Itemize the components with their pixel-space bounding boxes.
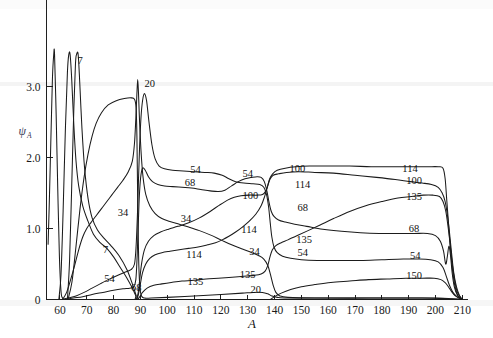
curve-label: 34 [249, 246, 260, 257]
psi-vs-a-line-chart: 6070809010011012013014015016017018019020… [0, 0, 493, 338]
curve-label: 54 [410, 250, 421, 261]
x-tick-label: 70 [81, 304, 93, 316]
curve-label: 114 [402, 163, 418, 174]
curve-label: 135 [406, 191, 422, 202]
y-tick-label: 1.0 [26, 223, 41, 235]
x-tick-label: 160 [320, 304, 338, 316]
curve-label: 135 [240, 269, 256, 280]
curve-label: 68 [297, 202, 308, 213]
curve-label: 68 [185, 177, 196, 188]
x-tick-label: 100 [159, 304, 177, 316]
curve-label: 100 [243, 190, 259, 201]
x-tick-label: 110 [186, 304, 203, 316]
curve-label: 7 [103, 244, 108, 255]
x-tick-label: 190 [400, 304, 418, 316]
figure-root: 6070809010011012013014015016017018019020… [0, 0, 493, 338]
curve-label: 114 [241, 224, 257, 235]
curve-label: 54 [104, 273, 115, 284]
curve-label: 20 [145, 78, 156, 89]
curve-label: 135 [188, 276, 204, 287]
x-tick-label: 150 [293, 304, 311, 316]
y-axis-title-symbol: ψ [18, 124, 26, 138]
x-tick-label: 60 [54, 304, 66, 316]
curve-label: 68 [409, 223, 420, 234]
x-tick-label: 130 [239, 304, 257, 316]
curve-label: 135 [296, 234, 312, 245]
x-tick-label: 180 [373, 304, 391, 316]
curve-label: 20 [251, 284, 262, 295]
curve-label: 54 [242, 168, 253, 179]
curve-label: 114 [186, 249, 202, 260]
curve-label: 114 [295, 179, 311, 190]
x-tick-label: 120 [212, 304, 230, 316]
curve-label: 100 [406, 175, 422, 186]
x-axis-title: A [247, 316, 256, 331]
x-tick-label: 200 [427, 304, 445, 316]
y-axis-title-subscript: A [26, 131, 32, 140]
curve-label: 7 [77, 55, 82, 66]
x-tick-label: 140 [266, 304, 284, 316]
curve-label: 54 [190, 164, 201, 175]
x-tick-label: 210 [454, 304, 472, 316]
y-tick-label: 3.0 [26, 81, 41, 93]
curve-label: 54 [297, 247, 308, 258]
x-tick-label: 90 [135, 304, 147, 316]
x-tick-label: 80 [108, 304, 120, 316]
curve-label: 34 [118, 207, 129, 218]
curve-label: 150 [406, 270, 422, 281]
y-tick-label: 0 [35, 294, 41, 306]
x-tick-label: 170 [346, 304, 364, 316]
y-tick-label: 2.0 [26, 152, 41, 164]
curve-label: 100 [289, 163, 305, 174]
curve-label: 34 [181, 213, 192, 224]
curve-label: 68 [131, 282, 142, 293]
